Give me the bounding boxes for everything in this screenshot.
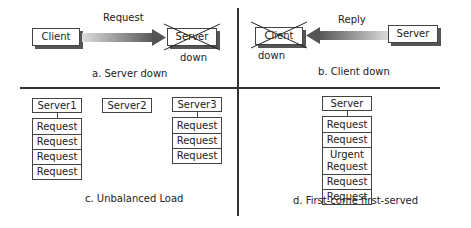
server3-box: Server3 [172, 97, 222, 112]
queue-item: Request [33, 149, 81, 164]
queue-item: Request [33, 164, 81, 179]
horizontal-divider [20, 87, 440, 89]
queue-item-urgent: Urgent Request [323, 147, 371, 174]
queue-item: Request [323, 117, 371, 132]
queue-item: Request [173, 148, 221, 163]
cross-icon [249, 20, 309, 50]
request-label: Request [103, 12, 144, 23]
request-arrow-icon [82, 28, 167, 48]
server-queue: Request Request Urgent Request Request R… [322, 116, 372, 205]
reply-label: Reply [338, 14, 366, 25]
queue-item: Request [33, 119, 81, 134]
caption-d: d. First-come first-served [293, 195, 418, 206]
vertical-divider [237, 8, 239, 216]
client-box: Client [32, 28, 80, 46]
caption-a: a. Server down [92, 68, 167, 79]
reply-arrow-icon [306, 26, 391, 46]
queue-item: Request [323, 132, 371, 147]
down-label: down [180, 52, 207, 63]
server-box: Server [322, 96, 372, 111]
queue-item: Request [173, 133, 221, 148]
cross-icon [162, 22, 222, 52]
queue-item: Request [323, 174, 371, 189]
caption-b: b. Client down [318, 66, 390, 77]
server-box: Server [388, 25, 438, 43]
queue-item: Request [33, 134, 81, 149]
server3-queue: Request Request Request [172, 117, 222, 164]
queue-item: Request [173, 118, 221, 133]
server1-queue: Request Request Request Request [32, 118, 82, 180]
caption-c: c. Unbalanced Load [85, 193, 183, 204]
server2-box: Server2 [102, 98, 152, 113]
down-label: down [258, 50, 285, 61]
server1-box: Server1 [32, 98, 82, 113]
